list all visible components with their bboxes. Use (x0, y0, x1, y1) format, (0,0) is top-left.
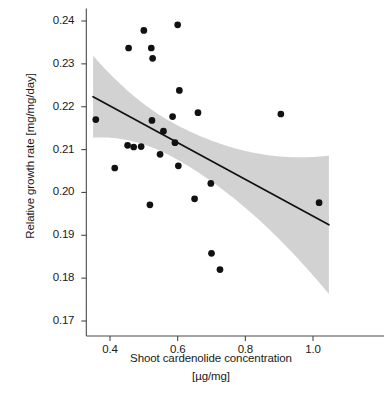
data-point (169, 113, 176, 120)
x-axis-tick-label: 0.6 (158, 343, 198, 355)
data-point (125, 45, 132, 52)
data-point (172, 139, 179, 146)
data-point (148, 45, 155, 52)
data-point (140, 27, 147, 34)
y-axis-tick-label: 0.19 (34, 228, 74, 240)
data-point (217, 266, 224, 273)
data-point (124, 142, 131, 149)
x-axis-tick-label: 1.0 (293, 343, 333, 355)
data-point (130, 144, 137, 151)
data-point (207, 180, 214, 187)
y-axis-tick-label: 0.17 (34, 314, 74, 326)
data-point (208, 250, 215, 257)
data-point (92, 116, 99, 123)
data-point (191, 196, 198, 203)
data-point (149, 117, 156, 124)
x-axis-label-line2: [µg/mg] (0, 370, 384, 382)
data-point (278, 111, 285, 118)
y-axis-tick-label: 0.20 (34, 185, 74, 197)
data-point (160, 128, 167, 135)
y-axis-tick-label: 0.22 (34, 100, 74, 112)
data-point (176, 87, 183, 94)
data-point (316, 199, 323, 206)
data-point (138, 143, 145, 150)
y-axis-tick-label: 0.23 (34, 57, 74, 69)
confidence-band-group (93, 56, 329, 294)
data-point (175, 163, 182, 170)
x-axis-tick-label: 0.4 (90, 343, 130, 355)
data-point (174, 22, 181, 29)
y-axis-tick-label: 0.18 (34, 271, 74, 283)
confidence-band (93, 56, 329, 294)
data-point (195, 109, 202, 116)
y-axis-tick-label: 0.24 (34, 14, 74, 26)
data-point (147, 202, 154, 209)
data-point (111, 165, 118, 172)
y-axis-tick-label: 0.21 (34, 143, 74, 155)
data-point (149, 55, 156, 62)
scatter-plot-figure: Relative growth rate [mg/mg/day] Shoot c… (0, 0, 384, 395)
y-axis-label: Relative growth rate [mg/mg/day] (24, 56, 36, 256)
y-axis-ticks (81, 21, 86, 321)
data-point (157, 151, 164, 158)
x-axis-tick-label: 0.8 (225, 343, 265, 355)
x-axis-ticks (110, 336, 313, 341)
